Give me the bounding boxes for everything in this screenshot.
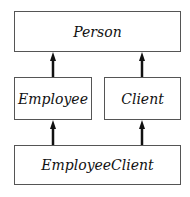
arrow-employeeclient-to-client <box>139 120 145 145</box>
arrow-employee-to-person <box>50 52 56 77</box>
arrow-client-to-person <box>139 52 145 77</box>
inheritance-arrows <box>0 0 190 197</box>
arrow-employeeclient-to-employee <box>50 120 56 145</box>
